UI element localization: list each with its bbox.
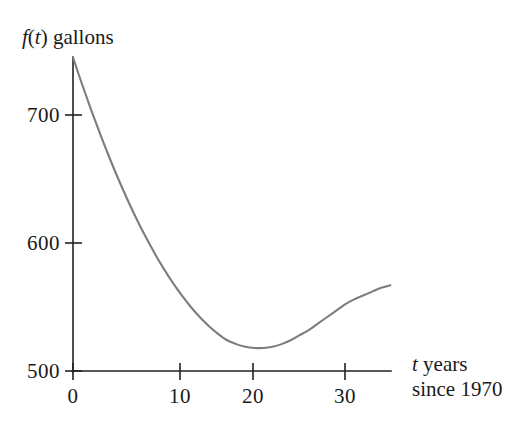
x-axis-title-line1: t years	[412, 352, 502, 377]
x-tick-label-30: 30	[324, 386, 366, 407]
y-axis-title-open-paren: (	[28, 25, 35, 49]
y-axis-title: f(t) gallons	[22, 25, 114, 50]
y-axis-title-units: gallons	[48, 25, 114, 49]
y-tick-label-600: 600	[8, 233, 60, 254]
x-tick-label-0: 0	[57, 386, 89, 407]
x-axis-title-line2: since 1970	[412, 377, 502, 402]
y-tick-label-500: 500	[8, 361, 60, 382]
x-axis-title-unit: years	[418, 352, 468, 376]
y-tick-label-700: 700	[8, 105, 60, 126]
y-axis-title-close-paren: )	[41, 25, 48, 49]
x-axis-title: t years since 1970	[412, 352, 502, 402]
x-tick-label-20: 20	[232, 386, 274, 407]
x-tick-label-10: 10	[159, 386, 201, 407]
chart-figure: f(t) gallons t years since 1970 700 600 …	[0, 0, 519, 425]
data-curve-ft	[73, 57, 390, 348]
